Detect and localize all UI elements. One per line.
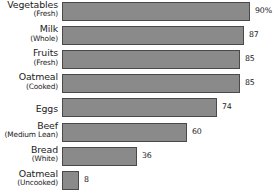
- chart-row: Eggs74: [0, 96, 278, 120]
- bar: [62, 50, 240, 69]
- bar: [62, 74, 240, 93]
- category-label-sub: (Whole): [0, 35, 58, 42]
- category-label: Oatmeal(Uncooked): [0, 169, 58, 193]
- bar-value-label: 36: [142, 151, 152, 160]
- category-label-main: Beef: [0, 121, 58, 130]
- chart-row: Oatmeal(Cooked)85: [0, 72, 278, 96]
- bar-value-label: 85: [245, 78, 255, 87]
- category-label-sub: (Medium Lean): [0, 131, 58, 138]
- chart-row: Vegetables(Fresh)90%: [0, 0, 278, 24]
- category-label-main: Eggs: [36, 104, 58, 113]
- category-label: Fruits(Fresh): [0, 48, 58, 72]
- category-label-main: Oatmeal: [0, 169, 58, 178]
- horizontal-bar-chart: Vegetables(Fresh)90%Milk(Whole)87Fruits(…: [0, 0, 278, 195]
- category-label-sub: (White): [0, 155, 58, 162]
- bar-value-label: 87: [249, 30, 259, 39]
- category-label-sub: (Uncooked): [0, 179, 58, 186]
- bar: [62, 98, 217, 117]
- bar-value-label: 90%: [255, 6, 272, 15]
- chart-row: Fruits(Fresh)85: [0, 48, 278, 72]
- bar-value-label: 60: [192, 127, 202, 136]
- chart-row: Milk(Whole)87: [0, 24, 278, 48]
- category-label: Milk(Whole): [0, 24, 58, 48]
- bar-value-label: 85: [245, 54, 255, 63]
- category-label: Beef(Medium Lean): [0, 121, 58, 145]
- category-label-main: Vegetables: [0, 0, 58, 9]
- bar-value-label: 8: [84, 175, 89, 184]
- category-label: Bread(White): [0, 145, 58, 169]
- bar: [62, 171, 79, 190]
- bar: [62, 123, 187, 142]
- bar: [62, 2, 250, 21]
- category-label-main: Bread: [0, 145, 58, 154]
- category-label: Vegetables(Fresh): [0, 0, 58, 24]
- chart-row: Oatmeal(Uncooked)8: [0, 169, 278, 193]
- bar: [62, 147, 137, 166]
- category-label: Oatmeal(Cooked): [0, 72, 58, 96]
- bar: [62, 26, 244, 45]
- chart-row: Bread(White)36: [0, 145, 278, 169]
- category-label: Eggs: [0, 96, 58, 120]
- bar-value-label: 74: [222, 102, 232, 111]
- category-label-sub: (Fresh): [0, 10, 58, 17]
- chart-row: Beef(Medium Lean)60: [0, 121, 278, 145]
- category-label-main: Fruits: [0, 48, 58, 57]
- category-label-main: Oatmeal: [0, 72, 58, 81]
- category-label-sub: (Cooked): [0, 83, 58, 90]
- category-label-sub: (Fresh): [0, 59, 58, 66]
- category-label-main: Milk: [0, 24, 58, 33]
